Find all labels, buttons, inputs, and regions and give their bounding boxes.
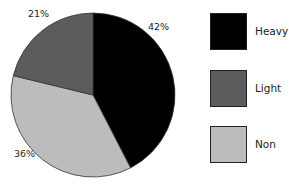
legend-label-light: Light	[255, 82, 281, 94]
legend-item-heavy: Heavy	[210, 13, 289, 53]
legend-swatch-light	[210, 70, 247, 107]
legend-swatch-non	[210, 126, 247, 163]
legend-label-heavy: Heavy	[255, 25, 288, 37]
legend-item-light: Light	[210, 70, 289, 110]
legend-swatch-heavy	[210, 13, 247, 50]
pct-label-light: 21%	[28, 8, 49, 19]
pie-chart: 42%36%21%	[0, 0, 200, 185]
pct-label-heavy: 42%	[148, 21, 169, 32]
pct-label-non: 36%	[14, 148, 35, 159]
legend-item-non: Non	[210, 126, 289, 166]
legend-label-non: Non	[255, 138, 276, 150]
